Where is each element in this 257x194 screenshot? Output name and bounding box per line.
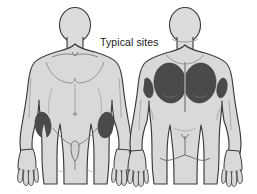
anatomical-figures-svg xyxy=(0,0,257,194)
anterior-figure xyxy=(18,8,133,186)
posterior-hand-left xyxy=(128,150,149,187)
posterior-hand-right xyxy=(222,150,243,187)
body-map-diagram: Typical sites xyxy=(0,0,257,194)
posterior-figure xyxy=(128,8,243,187)
anterior-hand-left xyxy=(18,149,39,186)
